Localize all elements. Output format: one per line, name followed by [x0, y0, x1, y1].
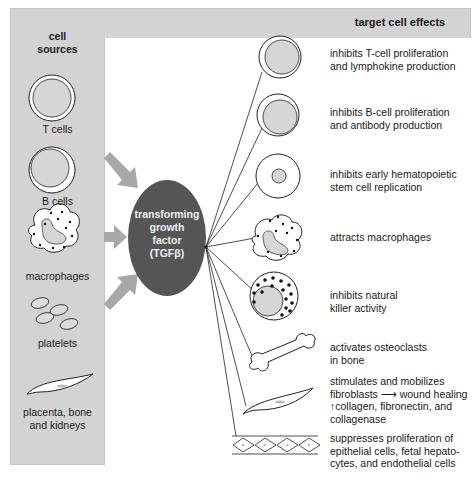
tgf-beta-hub-label: transforming growth factor (TGFβ): [128, 208, 206, 260]
effect-epithelial: suppresses proliferation of epithelial c…: [330, 432, 472, 470]
hub-line: growth: [128, 221, 206, 234]
effect-line: epithelial cells, fetal hepato-: [330, 445, 472, 458]
effect-line: inhibits early hematopoietic: [330, 168, 472, 181]
target-t-cell-icon: [259, 36, 301, 78]
arrow-icon: [104, 225, 127, 249]
effect-natural-killer: inhibits natural killer activity: [330, 289, 472, 314]
effect-line: inhibits T-cell proliferation: [330, 47, 472, 60]
platelets-icon: [30, 296, 79, 331]
effect-line: stimulates and mobilizes: [330, 375, 472, 388]
effect-line: fibroblasts ⟶ wound healing: [330, 388, 472, 401]
effect-line: cytes, and endothelial cells: [330, 457, 472, 470]
effect-b-cell: inhibits B-cell proliferation and antibo…: [330, 106, 472, 131]
hub-line: transforming: [128, 208, 206, 221]
effect-line: stem cell replication: [330, 181, 472, 194]
title-line: sources: [10, 43, 105, 56]
effect-macrophage: attracts macrophages: [330, 231, 472, 244]
source-label-t-cells: T cells: [10, 123, 105, 136]
hub-line: factor: [128, 234, 206, 247]
effect-fibroblast: stimulates and mobilizes fibroblasts ⟶ w…: [330, 375, 472, 425]
hub-line: (TGFβ): [128, 247, 206, 260]
target-macrophage-icon: [252, 215, 302, 260]
effect-line: collagenase: [330, 413, 472, 426]
effect-stem-cell: inhibits early hematopoietic stem cell r…: [330, 168, 472, 193]
arrow-icon: [104, 274, 138, 310]
source-label-b-cells: B cells: [10, 195, 105, 208]
effect-line: ↑collagen, fibronectin, and: [330, 400, 472, 413]
target-cell-effects-title: target cell effects: [330, 16, 470, 29]
arrow-icon: [104, 152, 138, 188]
b-cell-icon: [29, 147, 75, 193]
effect-line: killer activity: [330, 302, 472, 315]
fibroblast-cell-icon: [27, 374, 93, 394]
title-line: cell: [10, 30, 105, 43]
cell-sources-title: cell sources: [10, 30, 105, 56]
label-line: and kidneys: [10, 419, 105, 432]
effect-bone: activates osteoclasts in bone: [330, 341, 472, 366]
target-b-cell-icon: [257, 94, 299, 136]
effect-line: in bone: [330, 354, 472, 367]
target-natural-killer-cell-icon: [250, 272, 298, 320]
target-bone-icon: [250, 333, 316, 370]
target-epithelial-cells-icon: [232, 436, 320, 454]
source-label-macrophages: macrophages: [10, 270, 105, 283]
effect-t-cell: inhibits T-cell proliferation and lympho…: [330, 47, 472, 72]
macrophage-icon: [28, 204, 79, 253]
source-label-placenta-bone-kidneys: placenta, bone and kidneys: [10, 406, 105, 431]
label-line: placenta, bone: [10, 406, 105, 419]
effect-line: inhibits natural: [330, 289, 472, 302]
effect-line: and antibody production: [330, 119, 472, 132]
target-stem-cell-icon: [256, 154, 300, 198]
effect-line: attracts macrophages: [330, 231, 472, 244]
tgf-beta-diagram: cell sources T cells B cells macrophages…: [0, 0, 474, 480]
effect-line: suppresses proliferation of: [330, 432, 472, 445]
effect-line: and lymphokine production: [330, 60, 472, 73]
effect-line: activates osteoclasts: [330, 341, 472, 354]
t-cell-icon: [29, 75, 75, 121]
target-fibroblast-icon: [243, 388, 313, 414]
connector-lines: [206, 72, 262, 436]
effect-line: inhibits B-cell proliferation: [330, 106, 472, 119]
source-label-platelets: platelets: [10, 337, 105, 350]
